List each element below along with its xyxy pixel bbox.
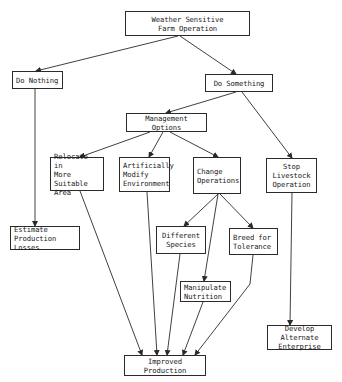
node-estimate-production-losses: Estimate Production Losses (10, 226, 80, 250)
node-do-something: Do Something (205, 74, 273, 92)
node-different-species: Different Species (156, 226, 206, 254)
node-artificially-modify-environment: Artificially Modify Environment (119, 157, 170, 192)
node-develop-alternate-enterprise: Develop Alternate Enterprise (267, 325, 332, 350)
node-change-operations: Change Operations (193, 157, 241, 194)
node-improved-production: Improved Production (124, 355, 206, 376)
node-manipulate-nutrition: Manipulate Nutrition (180, 281, 231, 302)
node-stop-livestock-operation: Stop Livestock Operation (266, 158, 317, 193)
node-relocate: Relocate in More Suitable Area (50, 157, 104, 191)
node-management-options: Management Options (126, 113, 207, 132)
node-do-nothing: Do Nothing (12, 71, 63, 89)
node-weather-sensitive-farm-operation: Weather Sensitive Farm Operation (125, 11, 250, 36)
node-breed-for-tolerance: Breed for Tolerance (229, 228, 278, 255)
